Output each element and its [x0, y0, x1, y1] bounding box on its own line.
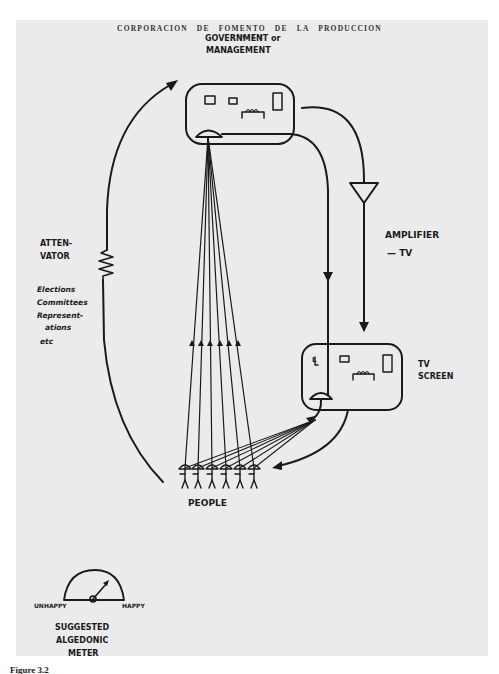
- person-icon: [179, 465, 191, 488]
- person-icon: [248, 465, 260, 488]
- label-people: PEOPLE: [188, 498, 227, 508]
- person-icon: [234, 465, 246, 488]
- govt-to-amplifier-line: [302, 107, 364, 183]
- label-screen: SCREEN: [418, 372, 453, 381]
- label-government: GOVERNMENT or: [205, 34, 281, 43]
- person-icon: [206, 465, 218, 488]
- tv-screen-box: [302, 344, 402, 410]
- label-suggested: SUGGESTED: [55, 623, 110, 632]
- algedonic-diagram: GOVERNMENT or MANAGEMENT AMPLIFIER — TV …: [0, 0, 499, 674]
- amplifier-triangle: [350, 183, 378, 203]
- feedback-loop-upper: [107, 85, 170, 250]
- label-representations: Represent-: [37, 311, 83, 320]
- label-tv: TV: [418, 360, 430, 369]
- label-amplifier-tv: — TV: [387, 248, 412, 258]
- label-elections: Elections: [37, 285, 76, 294]
- upward-arrowheads: [189, 340, 241, 346]
- label-algedonic: ALGEDONIC: [56, 636, 108, 645]
- label-management: MANAGEMENT: [206, 46, 271, 55]
- label-attenuator-2: VATOR: [40, 252, 70, 261]
- people-to-government-lines: [185, 137, 254, 468]
- person-icon: [220, 465, 232, 488]
- tv-screen-letter: L: [312, 356, 317, 364]
- label-meter: METER: [68, 649, 99, 658]
- feedback-loop-lower: [103, 280, 163, 482]
- label-committees: Committees: [37, 298, 88, 307]
- label-ations: ations: [45, 323, 72, 332]
- person-icon: [192, 465, 204, 488]
- label-amplifier: AMPLIFIER: [385, 230, 439, 240]
- figure-caption: Figure 3.2: [10, 665, 49, 674]
- label-etc: etc: [40, 337, 54, 346]
- label-attenuator-1: ATTEN-: [40, 239, 72, 248]
- label-unhappy: UNHAPPY: [34, 602, 67, 609]
- label-happy: HAPPY: [122, 602, 145, 609]
- people-figures: [179, 465, 260, 488]
- algedonic-meter-icon: [64, 570, 124, 602]
- attenuator-zigzag: [99, 250, 113, 280]
